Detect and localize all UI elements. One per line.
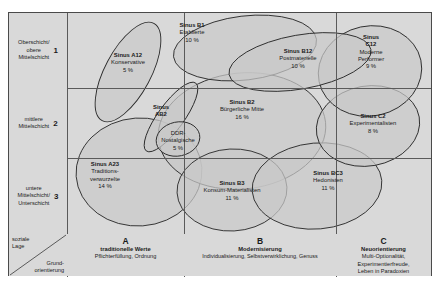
- row-label-3-text: untere Mittelschicht/ Unterschicht: [18, 185, 52, 207]
- row-label-1-text: Oberschicht/ obere Mittelschicht: [18, 39, 51, 61]
- axis-corner-box: sozialeLage Grund-orientierung: [9, 234, 67, 276]
- column-letter-c: C: [336, 236, 431, 246]
- column-letter-a: A: [67, 236, 184, 246]
- column-detail-c: Multi-Optionalität, Experimentierfreude,…: [336, 253, 431, 275]
- sinus-milieus-diagram: Oberschicht/ obere Mittelschicht 1 mittl…: [0, 0, 440, 288]
- plot-cell-b1: [184, 13, 336, 88]
- column-label-b: B Modernisierung Individualisierung, Sel…: [184, 234, 336, 276]
- gridline-horizontal-2-3: [9, 158, 431, 159]
- plot-cell-c3: [336, 158, 431, 234]
- plot-cell-a2: [67, 88, 184, 158]
- x-axis-title: Grund-orientierung: [34, 260, 64, 274]
- column-heading-a: traditionelle Werte: [67, 246, 184, 253]
- row-label-3: untere Mittelschicht/ Unterschicht 3: [9, 158, 67, 234]
- column-label-a: A traditionelle Werte Pflichterfüllung, …: [67, 234, 184, 276]
- plot-cell-b3: [184, 158, 336, 234]
- plot-cell-c2: [336, 88, 431, 158]
- plot-cell-c1: [336, 13, 431, 88]
- row-label-2: mittlere Mittelschicht 2: [9, 88, 67, 158]
- plot-cell-b2: [184, 88, 336, 158]
- column-label-c: C Neuorientierung Multi-Optionalität, Ex…: [336, 234, 431, 276]
- plot-cell-a3: [67, 158, 184, 234]
- column-detail-a: Pflichterfüllung, Ordnung: [67, 253, 184, 260]
- plot-cell-a1: [67, 13, 184, 88]
- row-number-3: 3: [54, 192, 58, 201]
- row-label-1: Oberschicht/ obere Mittelschicht 1: [9, 13, 67, 88]
- column-heading-c: Neuorientierung: [336, 246, 431, 253]
- row-number-2: 2: [53, 119, 57, 128]
- column-letter-b: B: [184, 236, 336, 246]
- y-axis-title: sozialeLage: [12, 236, 29, 250]
- column-detail-b: Individualisierung, Selbstverwirklichung…: [184, 253, 336, 260]
- row-label-2-text: mittlere Mittelschicht: [18, 116, 51, 131]
- column-heading-b: Modernisierung: [184, 246, 336, 253]
- gridline-horizontal-1-2: [9, 88, 431, 89]
- row-number-1: 1: [53, 46, 57, 55]
